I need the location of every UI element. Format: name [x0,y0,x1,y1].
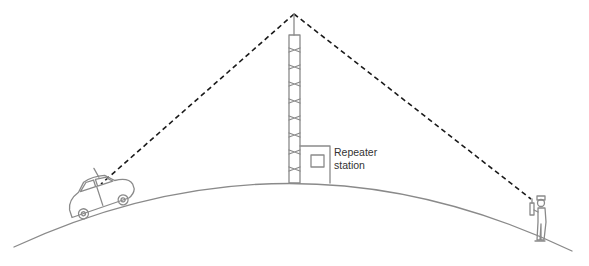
signal-path-to-car [101,14,294,184]
car-icon [60,158,139,222]
person-with-radio-icon [530,196,546,241]
repeater-tower [289,14,300,183]
ground-arc [14,183,572,251]
station-label-line1: Repeater [334,146,377,159]
repeater-station-building [300,146,330,183]
station-label: Repeater station [334,146,377,172]
station-label-line2: station [334,159,377,172]
repeater-diagram [0,0,589,266]
station-window [311,155,324,167]
